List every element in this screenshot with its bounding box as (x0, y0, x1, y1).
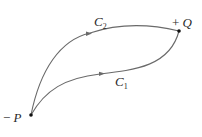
label-c2: C2 (94, 15, 107, 31)
label-q-name: Q (183, 15, 192, 30)
label-q: + Q (172, 16, 192, 29)
curve-c2 (31, 26, 179, 115)
label-p-name: P (14, 110, 22, 125)
label-c1: C1 (115, 75, 128, 91)
point-p-dot (29, 113, 33, 117)
label-q-sign: + (172, 15, 179, 30)
diagram-canvas: − P + Q C2 C1 (0, 0, 202, 137)
label-c1-subscript: 1 (124, 82, 128, 91)
label-c2-subscript: 2 (103, 22, 107, 31)
arrow-icon-c1 (99, 72, 105, 76)
label-c2-letter: C (94, 14, 103, 29)
label-p-sign: − (3, 110, 10, 125)
curve-c1 (31, 31, 179, 115)
label-c1-letter: C (115, 74, 124, 89)
label-p: − P (3, 111, 22, 124)
